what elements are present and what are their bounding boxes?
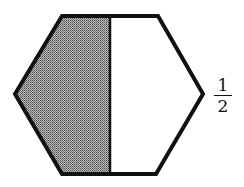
unshaded-half (110, 16, 203, 174)
numerator: 1 (212, 76, 234, 94)
fraction-label: 1 2 (212, 76, 234, 115)
shaded-half (15, 16, 110, 174)
hexagon-diagram (0, 0, 244, 187)
denominator: 2 (212, 97, 234, 115)
